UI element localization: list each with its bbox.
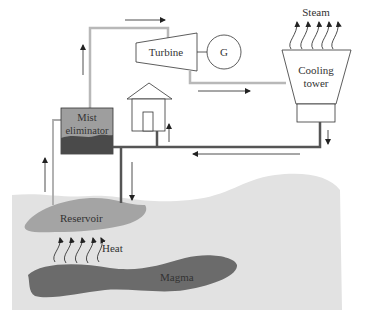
reservoir-label: Reservoir (60, 212, 103, 224)
mist-eliminator: Mist eliminator (61, 108, 113, 154)
cooling-label-2: tower (303, 77, 328, 89)
cooling-water-return-pipe (185, 122, 320, 147)
steam-arrows (290, 22, 338, 49)
cooling-tower: Cooling tower (282, 50, 351, 122)
steam-label: Steam (302, 6, 330, 18)
mist-label-1: Mist (77, 112, 96, 123)
cooling-label-1: Cooling (298, 64, 334, 76)
generator-label: G (220, 46, 228, 58)
turbine: Turbine (136, 33, 197, 71)
magma-label: Magma (160, 271, 194, 283)
exhaust-pipe-to-cooling-tower (190, 71, 286, 83)
geothermal-diagram: Reservoir Magma Heat Mist eliminator Tur… (0, 0, 368, 325)
heat-label: Heat (102, 242, 123, 254)
mist-label-2: eliminator (65, 125, 109, 136)
generator: G (207, 35, 241, 69)
house (127, 83, 172, 147)
turbine-label: Turbine (149, 46, 184, 58)
